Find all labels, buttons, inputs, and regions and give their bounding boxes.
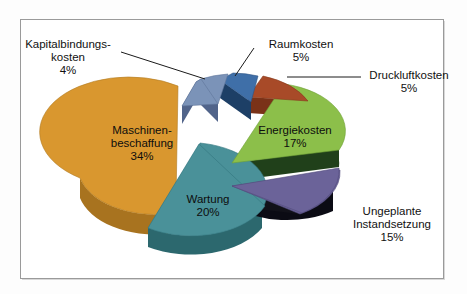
label-druckluftkosten-line1: Druckluftkosten (369, 69, 448, 81)
label-energiekosten-value: 17% (243, 137, 347, 150)
label-energiekosten-line1: Energiekosten (258, 124, 332, 136)
label-druckluftkosten-value: 5% (360, 82, 458, 95)
label-wartung: Wartung 20% (173, 193, 243, 219)
label-kapitalbindungskosten: Kapitalbindungs- kosten 4% (14, 38, 122, 77)
label-kapitalbindungskosten-line1: Kapitalbindungs- (25, 38, 111, 50)
label-raumkosten-value: 5% (258, 51, 344, 64)
label-maschinenbeschaffung-value: 34% (90, 150, 194, 163)
label-ungeplante-value: 15% (336, 231, 448, 244)
label-maschinenbeschaffung-line1: Maschinen- (112, 124, 171, 136)
label-energiekosten: Energiekosten 17% (243, 124, 347, 150)
label-ungeplante-line1: Ungeplante (363, 205, 422, 217)
label-raumkosten-line1: Raumkosten (269, 38, 334, 50)
label-druckluftkosten: Druckluftkosten 5% (360, 69, 458, 95)
label-maschinenbeschaffung: Maschinen- beschaffung 34% (90, 124, 194, 163)
label-ungeplante-line2: Instandsetzung (353, 218, 431, 230)
pie-chart: Kapitalbindungs- kosten 4% Raumkosten 5%… (0, 0, 467, 294)
label-wartung-value: 20% (173, 206, 243, 219)
label-wartung-line1: Wartung (186, 193, 229, 205)
label-maschinenbeschaffung-line2: beschaffung (111, 137, 173, 149)
label-raumkosten: Raumkosten 5% (258, 38, 344, 64)
leader-line-raumkosten (235, 48, 254, 76)
label-kapitalbindungskosten-line2: kosten (51, 51, 85, 63)
label-kapitalbindungskosten-value: 4% (14, 64, 122, 77)
label-ungeplante-instandsetzung: Ungeplante Instandsetzung 15% (336, 205, 448, 244)
leader-line-kapitalbindungskosten (121, 52, 205, 79)
